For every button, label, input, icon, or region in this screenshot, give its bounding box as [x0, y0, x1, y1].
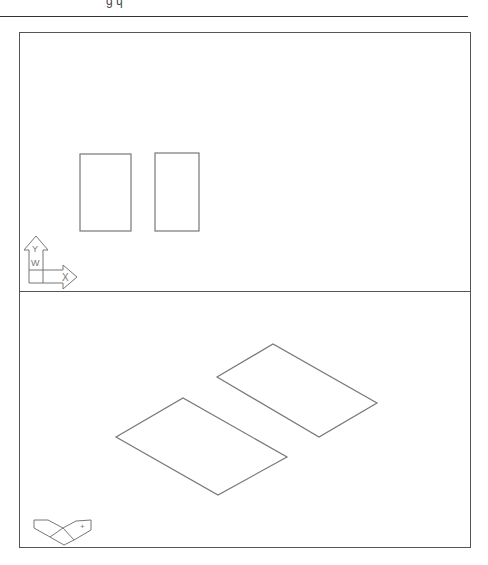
- drawing-canvas: Y W X +: [0, 0, 488, 565]
- iso-plane-1[interactable]: [116, 398, 287, 495]
- isometric-view[interactable]: [116, 344, 377, 495]
- ucs-icon-2d: Y W X: [24, 236, 77, 289]
- ucs-x-label: X: [62, 272, 69, 283]
- ucs-y-label: Y: [32, 244, 38, 254]
- ucs-w-label: W: [31, 258, 40, 268]
- ucs-iso-x-label: +: [80, 522, 85, 531]
- plan-rectangle-1[interactable]: [80, 154, 131, 231]
- ucs-icon-iso: +: [34, 520, 91, 545]
- plan-rectangle-2[interactable]: [155, 153, 199, 231]
- plan-view[interactable]: [80, 153, 199, 231]
- viewport-frame: [20, 33, 471, 548]
- iso-plane-2[interactable]: [217, 344, 377, 437]
